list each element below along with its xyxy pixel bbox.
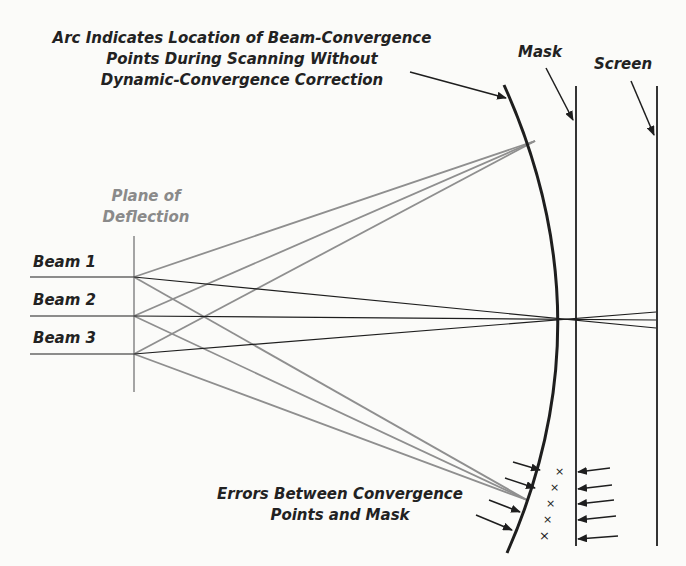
convergence-diagram: × × × × × Arc Indicates Location of Beam… <box>0 0 686 566</box>
errors-line-2: Points and Mask <box>200 505 480 526</box>
arc-note-line-2: Points During Scanning Without <box>22 49 462 70</box>
beam-3-label: Beam 3 <box>33 328 96 349</box>
beam-2-label: Beam 2 <box>33 290 96 311</box>
plane-label-line-2: Deflection <box>86 207 206 228</box>
arc-note-label: Arc Indicates Location of Beam-Convergen… <box>22 28 462 91</box>
svg-text:×: × <box>550 481 559 494</box>
center-black-rays <box>134 277 656 354</box>
svg-text:×: × <box>546 497 555 510</box>
plane-label-line-1: Plane of <box>86 186 206 207</box>
screen-label: Screen <box>594 54 652 75</box>
errors-line-1: Errors Between Convergence <box>200 484 480 505</box>
upper-gray-rays <box>134 141 535 354</box>
arc-note-line-1: Arc Indicates Location of Beam-Convergen… <box>22 28 462 49</box>
svg-text:×: × <box>555 465 564 478</box>
errors-label: Errors Between Convergence Points and Ma… <box>200 484 480 526</box>
right-error-arrows <box>578 468 618 539</box>
arc-note-line-3: Dynamic-Convergence Correction <box>22 70 462 91</box>
plane-of-deflection-label: Plane of Deflection <box>86 186 206 228</box>
mask-pointer-arrow <box>546 68 573 120</box>
lower-gray-rays <box>134 277 527 500</box>
beam-1-label: Beam 1 <box>33 252 96 273</box>
svg-text:×: × <box>543 513 552 526</box>
screen-pointer-arrow <box>631 81 654 135</box>
svg-text:×: × <box>539 528 550 543</box>
error-x-marks: × × × × × <box>539 465 564 543</box>
mask-label: Mask <box>518 42 562 63</box>
